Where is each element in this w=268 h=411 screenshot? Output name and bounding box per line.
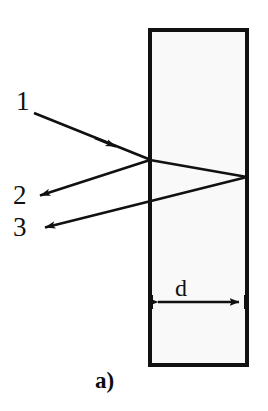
- figure-a-light-reflection-plate: 1 2 3 d a): [0, 0, 268, 411]
- ray-label-3: 3: [13, 214, 27, 241]
- panel-label-a: a): [95, 369, 114, 392]
- ray-label-1: 1: [16, 88, 30, 115]
- ray-label-2: 2: [13, 182, 27, 209]
- ray-1-line: [34, 113, 151, 160]
- thickness-label-d: d: [175, 276, 187, 300]
- ray-2-line: [40, 160, 150, 196]
- ray-1-direction-arrow: [95, 138, 116, 147]
- diagram-canvas: [0, 0, 268, 411]
